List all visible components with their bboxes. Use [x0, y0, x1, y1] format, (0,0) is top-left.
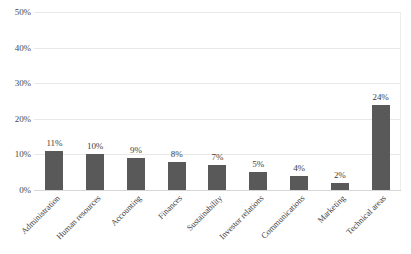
- bar-slot: 10%: [75, 12, 116, 190]
- gridline-0: [34, 190, 401, 191]
- x-axis-labels: AdministrationHuman resourcesAccountingF…: [34, 192, 401, 254]
- y-tick-label: 40%: [1, 44, 31, 53]
- x-tick-label: Administration: [18, 193, 61, 236]
- y-tick-label: 0%: [1, 186, 31, 195]
- bar-slot: 9%: [116, 12, 157, 190]
- x-tick-label: Finances: [156, 193, 184, 221]
- bar[interactable]: [249, 172, 267, 190]
- bar[interactable]: [290, 176, 308, 190]
- y-tick-label: 30%: [1, 79, 31, 88]
- bar-value-label: 4%: [293, 164, 305, 173]
- y-tick-label: 20%: [1, 115, 31, 124]
- bar-value-label: 10%: [87, 142, 103, 151]
- bar-chart: 0%10%20%30%40%50% 11%10%9%8%7%5%4%2%24% …: [0, 0, 411, 254]
- bar-value-label: 2%: [334, 171, 346, 180]
- bar[interactable]: [127, 158, 145, 190]
- bar-value-label: 11%: [46, 139, 62, 148]
- bar[interactable]: [372, 105, 390, 190]
- x-label-slot: Technical areas: [360, 192, 401, 254]
- x-label-slot: Human resources: [75, 192, 116, 254]
- bar-value-label: 24%: [372, 93, 388, 102]
- bar-slot: 2%: [319, 12, 360, 190]
- bar-slot: 5%: [238, 12, 279, 190]
- x-tick-label: Marketing: [315, 193, 347, 225]
- bar-slot: 4%: [279, 12, 320, 190]
- bar[interactable]: [86, 154, 104, 190]
- x-label-slot: Accounting: [116, 192, 157, 254]
- bars-layer: 11%10%9%8%7%5%4%2%24%: [34, 12, 401, 190]
- bar-slot: 7%: [197, 12, 238, 190]
- bar[interactable]: [208, 165, 226, 190]
- bar[interactable]: [168, 162, 186, 190]
- bar-value-label: 9%: [130, 146, 142, 155]
- y-axis: 0%10%20%30%40%50%: [0, 12, 31, 190]
- y-tick-label: 50%: [1, 8, 31, 17]
- bar[interactable]: [331, 183, 349, 190]
- bar-value-label: 7%: [212, 153, 224, 162]
- bar-value-label: 5%: [252, 160, 264, 169]
- bar[interactable]: [45, 151, 63, 190]
- bar-slot: 11%: [34, 12, 75, 190]
- bar-slot: 24%: [360, 12, 401, 190]
- bar-slot: 8%: [156, 12, 197, 190]
- y-tick-label: 10%: [1, 150, 31, 159]
- x-label-slot: Communications: [279, 192, 320, 254]
- bar-value-label: 8%: [171, 150, 183, 159]
